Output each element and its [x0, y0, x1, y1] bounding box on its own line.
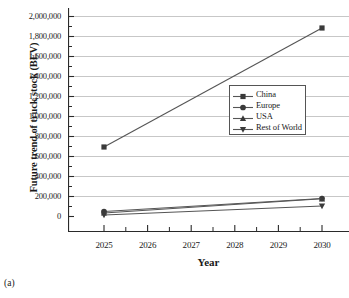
y-tick-label: 200,000: [35, 191, 61, 201]
y-tick-label: 1,600,000: [29, 51, 61, 61]
legend-marker-circle-icon: [232, 99, 254, 110]
y-tick-label: 400,000: [35, 171, 61, 181]
y-tick-label: 1,800,000: [29, 31, 61, 41]
legend-label: Rest of World: [254, 122, 302, 132]
y-tick-label: 800,000: [35, 131, 61, 141]
x-axis-tick-labels: 202520262027202820292030: [68, 240, 349, 256]
x-tick-label: 2027: [183, 240, 200, 250]
y-axis-tick-labels: 0200,000400,000600,000800,0001,000,0001,…: [0, 0, 64, 240]
legend-label: USA: [254, 111, 273, 121]
series-usa: [101, 196, 325, 216]
y-tick-marks: [69, 17, 74, 217]
legend-item-usa[interactable]: USA: [232, 110, 302, 121]
chart-legend: ChinaEuropeUSARest of World: [229, 85, 306, 135]
y-tick-label: 1,400,000: [29, 71, 61, 81]
y-tick-label: 0: [57, 211, 61, 221]
data-point-marker: [101, 144, 106, 149]
series-europe: [101, 196, 325, 215]
legend-item-rest-of-world[interactable]: Rest of World: [232, 121, 302, 132]
data-point-marker: [319, 25, 324, 30]
legend-item-china[interactable]: China: [232, 88, 302, 99]
plot-area: [68, 8, 349, 232]
legend-marker-triangle-down-icon: [232, 121, 254, 132]
figure-panel-a: Future trend of truck stock (BEV) 0200,0…: [0, 0, 349, 298]
y-tick-label: 1,000,000: [29, 111, 61, 121]
chart-svg: [68, 8, 349, 232]
x-tick-label: 2026: [139, 240, 156, 250]
x-axis-title: Year: [68, 256, 349, 268]
legend-marker-square-icon: [232, 88, 254, 99]
x-tick-label: 2029: [270, 240, 287, 250]
gridlines: [69, 17, 349, 197]
x-tick-label: 2028: [226, 240, 243, 250]
legend-marker-triangle-up-icon: [232, 110, 254, 121]
legend-label: Europe: [254, 100, 280, 110]
legend-label: China: [254, 89, 276, 99]
y-tick-label: 600,000: [35, 151, 61, 161]
legend-item-europe[interactable]: Europe: [232, 99, 302, 110]
x-tick-marks: [104, 225, 322, 231]
y-tick-label: 1,200,000: [29, 91, 61, 101]
y-tick-label: 2,000,000: [29, 11, 61, 21]
figure-caption: (a): [4, 278, 15, 288]
x-tick-label: 2025: [95, 240, 112, 250]
x-tick-label: 2030: [313, 240, 330, 250]
